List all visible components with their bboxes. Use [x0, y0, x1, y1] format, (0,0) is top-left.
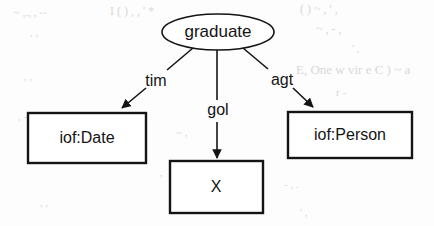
node-iof-date-label: iof:Date: [59, 129, 114, 146]
node-graduate-label: graduate: [184, 22, 251, 41]
edge-label-agt: agt: [271, 71, 294, 88]
edge-label-gol: gol: [207, 101, 228, 118]
node-iof-person[interactable]: iof:Person: [288, 112, 412, 158]
edge-agt-segment-upper: [243, 48, 268, 69]
diagram-canvas: ~ ,., , --I ( ) , , ' *( ) ~ , ' ,, ,~ ,…: [0, 0, 434, 226]
edge-agt-segment-lower-arrow: [293, 88, 313, 107]
edge-tim-segment-upper: [167, 48, 193, 70]
edge-tim-segment-lower-arrow: [122, 88, 146, 108]
node-x[interactable]: X: [170, 161, 263, 213]
node-iof-date[interactable]: iof:Date: [28, 113, 146, 163]
edge-gol: gol: [207, 49, 228, 158]
edge-tim: tim: [122, 48, 193, 108]
graduate-relation-diagram: tim gol agt graduate iof:Date X: [0, 0, 434, 226]
edge-label-tim: tim: [145, 72, 166, 89]
node-graduate[interactable]: graduate: [162, 14, 274, 50]
node-iof-person-label: iof:Person: [314, 126, 386, 143]
node-x-label: X: [211, 178, 222, 195]
edge-agt: agt: [243, 48, 313, 107]
